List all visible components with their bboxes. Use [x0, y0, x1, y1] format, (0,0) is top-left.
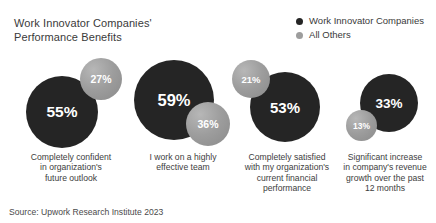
chart-container: Work Innovator Companies' Performance Be… — [0, 0, 436, 223]
bubble-value-label: 21% — [241, 73, 260, 84]
legend-dot-light-icon — [296, 32, 303, 39]
bubble-group-3: 53%21% — [232, 52, 332, 152]
bubble-value-label: 36% — [197, 118, 218, 130]
bubble-group-4: 33%13% — [346, 52, 434, 152]
category-label-3: Completely satisfied with my organizatio… — [229, 152, 345, 194]
bubble-group-1: 55%27% — [22, 52, 127, 152]
bubble-value-label: 13% — [353, 120, 370, 130]
bubble-value-label: 27% — [90, 73, 111, 85]
category-label-4: Significant increase in company's revenu… — [336, 152, 434, 194]
bubble-all-others[interactable]: 27% — [80, 58, 122, 100]
category-label-1: Completely confident in organization's f… — [12, 152, 130, 183]
chart-legend: Work Innovator Companies All Others — [296, 16, 424, 40]
legend-item-work-innovator-companies[interactable]: Work Innovator Companies — [296, 16, 424, 26]
chart-title: Work Innovator Companies' Performance Be… — [14, 16, 152, 44]
bubble-groups: 55%27%59%36%53%21%33%13% — [0, 52, 436, 152]
legend-label: All Others — [309, 30, 351, 40]
bubble-group-2: 59%36% — [128, 52, 233, 152]
bubble-all-others[interactable]: 21% — [232, 60, 270, 98]
bubble-value-label: 55% — [46, 103, 77, 121]
legend-label: Work Innovator Companies — [309, 16, 424, 26]
bubble-value-label: 33% — [375, 95, 402, 110]
bubble-value-label: 53% — [270, 98, 300, 115]
bubble-value-label: 59% — [157, 90, 190, 109]
legend-item-all-others[interactable]: All Others — [296, 30, 351, 40]
legend-dot-dark-icon — [296, 18, 303, 25]
category-label-2: I work on a highly effective team — [131, 152, 235, 173]
bubble-all-others[interactable]: 13% — [346, 110, 377, 141]
source-note: Source: Upwork Research Institute 2023 — [9, 207, 163, 217]
bubble-all-others[interactable]: 36% — [186, 102, 230, 146]
